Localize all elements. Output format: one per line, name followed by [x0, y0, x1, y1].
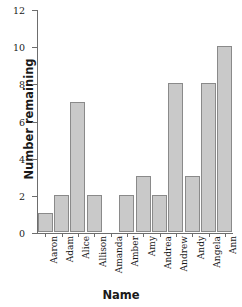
- bar: [136, 176, 151, 232]
- x-axis-tick: [94, 233, 95, 237]
- x-axis-title: Name: [0, 288, 242, 302]
- x-axis-tick: [176, 233, 177, 237]
- bar: [217, 46, 232, 232]
- x-axis-tick: [127, 233, 128, 237]
- bar: [87, 195, 102, 232]
- y-axis-tick-label: 6: [19, 116, 25, 127]
- x-axis-tick: [192, 233, 193, 237]
- bar: [168, 83, 183, 232]
- bar: [54, 195, 69, 232]
- x-axis-category-label: Amanda: [114, 236, 124, 273]
- bar: [119, 195, 134, 232]
- x-axis-category-label: Angela: [212, 236, 222, 268]
- x-axis-category-label: Aaron: [49, 236, 59, 263]
- y-axis-tick-label: 12: [13, 5, 25, 16]
- x-axis-tick: [111, 233, 112, 237]
- y-axis-tick-label: 2: [19, 190, 25, 201]
- x-axis-category-label: Andy: [196, 236, 206, 259]
- y-axis-tick-label: 4: [19, 153, 25, 164]
- y-axis-tick: 2: [32, 196, 37, 197]
- plot-area: 024681012: [37, 10, 233, 233]
- y-axis-tick: 6: [32, 122, 37, 123]
- bar-chart: Number remaining 024681012 AaronAdamAlic…: [0, 0, 242, 307]
- x-axis-category-label: Ann: [228, 236, 238, 254]
- y-axis-tick-label: 0: [19, 228, 25, 239]
- x-axis-category-label: Andrew: [179, 236, 189, 271]
- y-axis-tick: 12: [32, 10, 37, 11]
- y-axis-tick-label: 8: [19, 79, 25, 90]
- x-axis-tick: [143, 233, 144, 237]
- x-axis-category-label: Amy: [147, 236, 157, 256]
- x-axis-category-label: Allison: [98, 236, 108, 267]
- y-axis-tick: 10: [32, 47, 37, 48]
- y-axis-line: [37, 10, 38, 234]
- x-axis-tick: [209, 233, 210, 237]
- bar: [201, 83, 216, 232]
- x-axis-tick: [160, 233, 161, 237]
- bar: [185, 176, 200, 232]
- x-axis-tick: [225, 233, 226, 237]
- y-axis-tick: 8: [32, 84, 37, 85]
- bar: [152, 195, 167, 232]
- x-axis-category-label: Alice: [81, 236, 91, 259]
- y-axis-tick: 4: [32, 159, 37, 160]
- x-axis-line: [37, 233, 233, 234]
- bar: [70, 102, 85, 232]
- y-axis-tick-label: 10: [13, 42, 25, 53]
- x-axis-category-label: Adam: [65, 236, 75, 262]
- x-axis-tick: [62, 233, 63, 237]
- y-axis-tick: 0: [32, 233, 37, 234]
- bar: [38, 213, 53, 232]
- x-axis-tick: [45, 233, 46, 237]
- x-axis-category-label: Amber: [130, 236, 140, 266]
- x-axis-tick: [78, 233, 79, 237]
- x-axis-category-label: Andrea: [163, 236, 173, 269]
